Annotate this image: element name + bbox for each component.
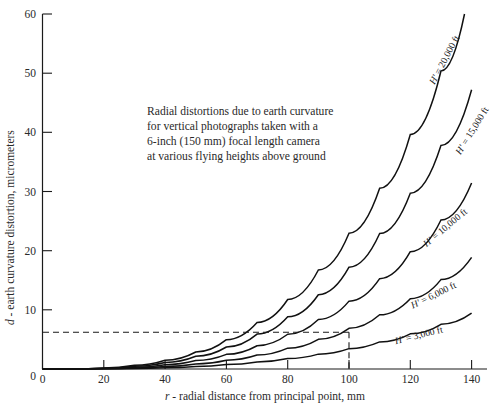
x-tick-label-140: 140 — [463, 373, 481, 385]
curve-6000 — [43, 257, 472, 369]
note-line-1: Radial distortions due to earth curvatur… — [147, 105, 333, 118]
x-tick-label-100: 100 — [340, 373, 358, 385]
y-tick-label-30: 30 — [25, 186, 37, 198]
chart-figure: 60 50 40 30 20 10 0 0 20 40 60 80 100 — [0, 0, 500, 408]
y-tick-label-50: 50 — [25, 67, 37, 79]
curve-label-6000: H' = 6,000 ft — [408, 279, 458, 311]
data-curves — [43, 14, 472, 369]
curve-label-3000: H' = 3,000 ft — [393, 323, 445, 346]
annotation-note: Radial distortions due to earth curvatur… — [147, 105, 333, 163]
curve-label-15000: H' = 15,000 ft — [452, 104, 491, 157]
note-line-2: for vertical photographs taken with a — [147, 120, 318, 133]
x-tick-label-40: 40 — [159, 373, 171, 385]
y-tick-label-20: 20 — [25, 245, 37, 257]
x-axis-title-rest: - radial distance from principal point, … — [169, 390, 364, 403]
chart-plot-area: 60 50 40 30 20 10 0 0 20 40 60 80 100 — [0, 0, 500, 408]
x-axis-tick-labels: 0 20 40 60 80 100 120 140 — [40, 373, 481, 385]
curve-label-10000: H' = 10,000 ft — [420, 206, 469, 250]
x-tick-label-80: 80 — [282, 373, 294, 385]
y-tick-label-40: 40 — [25, 126, 37, 138]
curve-labels: H' = 20,000 ftH' = 15,000 ftH' = 10,000 … — [393, 33, 491, 346]
y-tick-label-60: 60 — [25, 8, 37, 20]
y-axis-ticks — [43, 14, 53, 310]
x-tick-label-0: 0 — [40, 373, 46, 385]
x-tick-label-20: 20 — [98, 373, 110, 385]
note-line-4: at various flying heights above ground — [147, 150, 326, 163]
y-axis-title: d - earth curvature distortion, micromet… — [4, 130, 17, 325]
y-axis-title-rest: - earth curvature distortion, micrometer… — [4, 130, 17, 320]
y-tick-label-10: 10 — [25, 304, 37, 316]
y-tick-label-0: 0 — [30, 370, 36, 382]
curve-label-20000: H' = 20,000 ft — [426, 33, 462, 87]
note-line-3: 6-inch (150 mm) focal length camera — [147, 135, 320, 148]
y-axis-tick-labels: 60 50 40 30 20 10 0 — [25, 8, 37, 382]
x-tick-label-60: 60 — [221, 373, 233, 385]
axis-lines — [43, 14, 488, 369]
x-tick-label-120: 120 — [402, 373, 420, 385]
curve-20000 — [43, 14, 465, 369]
x-axis-title: r - radial distance from principal point… — [165, 390, 365, 403]
